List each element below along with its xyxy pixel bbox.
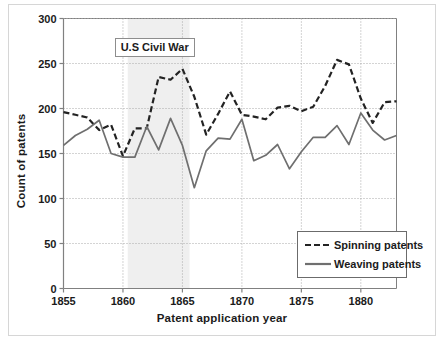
legend-entry-weaving[interactable]: Weaving patents <box>304 258 421 270</box>
series-line-weaving-patents <box>64 113 397 188</box>
y-tick-label: 0 <box>8 283 57 295</box>
legend-entry-spinning[interactable]: Spinning patents <box>304 239 423 251</box>
y-tick-label: 150 <box>8 148 57 160</box>
y-tick-label: 200 <box>8 103 57 115</box>
x-tick-label: 1875 <box>289 295 313 307</box>
y-tick-label: 100 <box>8 193 57 205</box>
x-tick-label: 1855 <box>51 295 75 307</box>
x-tick-label: 1880 <box>349 295 373 307</box>
legend-swatch-solid-icon <box>304 259 332 269</box>
legend-label-spinning: Spinning patents <box>334 239 423 251</box>
x-tick-label: 1860 <box>111 295 135 307</box>
x-tick-label: 1870 <box>230 295 254 307</box>
x-tick-label: 1865 <box>170 295 194 307</box>
legend-swatch-dashed-icon <box>304 240 332 250</box>
y-tick-label: 50 <box>8 238 57 250</box>
civil-war-annotation-label: U.S Civil War <box>115 38 195 57</box>
x-axis-title: Patent application year <box>0 312 444 324</box>
chart-figure: Count of patents Patent application year… <box>0 0 444 342</box>
y-tick-label: 250 <box>8 58 57 70</box>
legend-label-weaving: Weaving patents <box>334 258 421 270</box>
chart-legend: Spinning patents Weaving patents <box>297 231 407 278</box>
line-chart-plot <box>0 0 444 342</box>
y-tick-label: 300 <box>8 13 57 25</box>
